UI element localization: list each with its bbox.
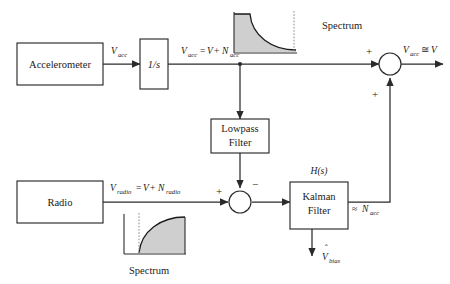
label-vbias-var: V: [322, 252, 329, 262]
label-radio-output: V radio = V + N radio: [110, 183, 181, 195]
label-topsum-out-lhs-var: V: [403, 45, 410, 55]
label-accel-out-var: V: [111, 46, 118, 56]
label-radio-out-lhs-sub: radio: [117, 188, 132, 195]
top-sum-sign-bottom: +: [372, 88, 378, 100]
label-radio-out-lhs-var: V: [110, 183, 117, 193]
label-int-out-noise-var: N: [221, 46, 229, 56]
label-kalman-feedback: ≈ N acc: [352, 204, 379, 216]
spectrum-plot-bottom: Spectrum: [124, 213, 186, 276]
block-radio-label: Radio: [47, 197, 72, 208]
spectrum-plot-top: Spectrum: [234, 11, 362, 53]
block-lowpass-filter-label-line2: Filter: [229, 137, 252, 148]
wire-kalman-feedback-to-top-sum: [348, 78, 390, 202]
label-integrator-output: V acc = V + N acc: [181, 46, 239, 58]
label-accel-out-sub: acc: [118, 51, 127, 58]
kalman-transfer-function-label: H(s): [310, 166, 328, 177]
label-topsum-out-approx: ≅: [421, 45, 429, 55]
label-radio-out-plus: +: [150, 183, 155, 193]
spectrum-top-fill: [234, 14, 296, 52]
label-vbias-sub: bias: [329, 257, 340, 264]
label-int-out-rhs-var: V: [207, 46, 214, 56]
bottom-sum-sign-left: +: [216, 185, 222, 197]
spectrum-top-label: Spectrum: [322, 20, 362, 31]
block-diagram-svg: Accelerometer 1/s Lowpass Filter Radio K…: [0, 0, 450, 284]
block-diagram-canvas: Accelerometer 1/s Lowpass Filter Radio K…: [0, 0, 450, 284]
summing-junction-top[interactable]: [379, 53, 401, 75]
label-kalman-fb-var: N: [361, 204, 369, 214]
label-top-sum-output: V acc ≅ V: [403, 45, 438, 57]
bottom-sum-sign-top: −: [252, 178, 258, 190]
block-lowpass-filter-label-line1: Lowpass: [221, 123, 258, 134]
block-kalman-filter-label-line1: Kalman: [302, 191, 336, 202]
label-radio-out-rhs-var: V: [143, 183, 150, 193]
block-kalman-filter-label-line2: Filter: [308, 205, 331, 216]
label-kalman-bias-estimate: ˆ V bias: [322, 244, 340, 264]
label-radio-out-noise-sub: radio: [166, 188, 181, 195]
label-int-out-equals: =: [200, 46, 205, 56]
label-int-out-plus: +: [214, 46, 219, 56]
summing-junction-bottom[interactable]: [229, 191, 251, 213]
label-topsum-out-lhs-sub: acc: [410, 50, 419, 57]
label-radio-out-equals: =: [136, 183, 141, 193]
label-int-out-noise-sub: acc: [230, 51, 239, 58]
label-int-out-lhs-sub: acc: [188, 51, 197, 58]
block-integrator-label: 1/s: [148, 59, 160, 70]
label-topsum-out-rhs-var: V: [431, 45, 438, 55]
spectrum-bottom-label: Spectrum: [129, 265, 169, 276]
top-sum-sign-left: +: [366, 45, 372, 57]
label-kalman-fb-approx: ≈: [352, 204, 357, 214]
label-int-out-lhs-var: V: [181, 46, 188, 56]
junction-dot-top-tap: [238, 62, 242, 66]
label-accelerometer-output: V acc: [111, 46, 127, 58]
label-kalman-fb-sub: acc: [370, 209, 379, 216]
label-radio-out-noise-var: N: [157, 183, 165, 193]
block-accelerometer-label: Accelerometer: [29, 59, 91, 70]
